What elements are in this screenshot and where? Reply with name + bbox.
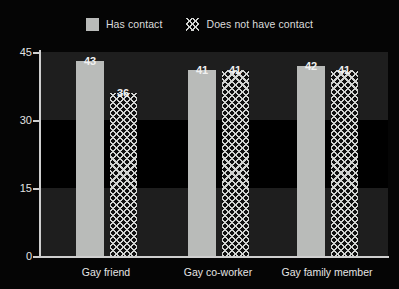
bar-value-gay-coworker-no-contact: 41 bbox=[214, 64, 256, 76]
bar-value-gay-family-no-contact: 41 bbox=[323, 64, 365, 76]
bar-gay-family-has-contact[interactable] bbox=[297, 66, 325, 256]
bar-chart: Has contact Does not have contact 45 30 … bbox=[0, 0, 399, 289]
x-category-label-gay-family-member: Gay family member bbox=[267, 266, 387, 278]
bar-gay-coworker-has-contact[interactable] bbox=[188, 70, 216, 256]
bars-layer: 43 36 41 41 42 41 bbox=[0, 0, 399, 289]
bar-value-gay-friend-no-contact: 36 bbox=[102, 87, 144, 99]
x-category-label-gay-friend: Gay friend bbox=[46, 266, 166, 278]
bar-gay-friend-no-contact[interactable] bbox=[110, 93, 137, 256]
x-category-label-gay-coworker: Gay co-worker bbox=[158, 266, 278, 278]
bar-gay-coworker-no-contact[interactable] bbox=[222, 70, 249, 256]
bar-gay-friend-has-contact[interactable] bbox=[76, 61, 104, 256]
bar-gay-family-no-contact[interactable] bbox=[331, 70, 358, 256]
bar-value-gay-friend-has-contact: 43 bbox=[69, 55, 111, 67]
